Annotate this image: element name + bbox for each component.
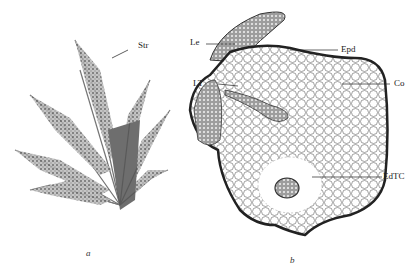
panel-b-cross-section: Le Epd LT Co EdTC b (180, 0, 420, 272)
panel-b-caption: b (290, 255, 295, 265)
label-epd: Epd (341, 45, 356, 54)
label-lt: LT (193, 79, 203, 88)
label-co: Co (394, 79, 405, 88)
label-le: Le (190, 38, 200, 47)
panel-a-moss-illustration: a Str (0, 0, 180, 272)
moss-plant-drawing (0, 0, 180, 272)
label-edtc: EdTC (383, 172, 405, 181)
panel-a-caption: a (86, 248, 91, 258)
label-str: Str (138, 41, 149, 50)
stem-cross-section-drawing (180, 0, 420, 272)
